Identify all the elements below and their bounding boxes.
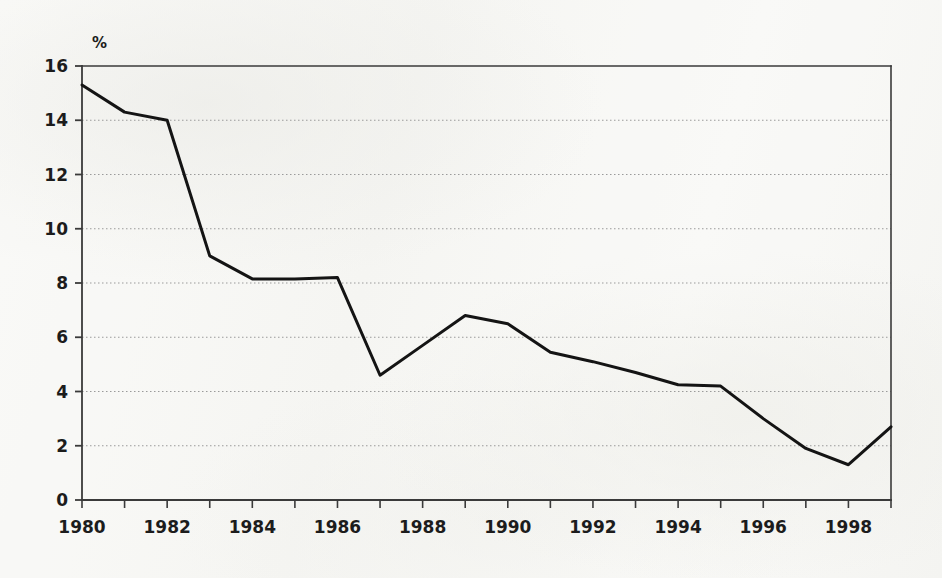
chart-figure: 0246810121416 19801982198419861988199019…	[0, 0, 942, 578]
y-axis-unit-label: %	[92, 34, 107, 52]
x-tick-label: 1982	[143, 517, 190, 537]
data-series-line	[82, 85, 891, 465]
y-tick-label: 10	[44, 219, 68, 239]
y-tick-label: 4	[56, 382, 68, 402]
y-tick-label: 8	[56, 273, 68, 293]
y-tick-label: 2	[56, 436, 68, 456]
y-tick-label: 14	[44, 110, 68, 130]
percent-unit-label: %	[92, 34, 107, 52]
gridlines	[82, 120, 891, 446]
x-tick-label: 1994	[654, 517, 701, 537]
y-tick-label: 12	[44, 165, 68, 185]
y-axis-ticks	[75, 66, 82, 500]
y-tick-label: 16	[44, 56, 68, 76]
x-axis-ticks	[82, 500, 891, 508]
x-tick-label: 1984	[229, 517, 276, 537]
line-chart-plot: 0246810121416 19801982198419861988199019…	[0, 0, 942, 578]
x-tick-label: 1986	[314, 517, 361, 537]
x-tick-label: 1990	[484, 517, 531, 537]
x-tick-label: 1996	[740, 517, 787, 537]
x-tick-label: 1998	[825, 517, 872, 537]
x-tick-label: 1980	[58, 517, 105, 537]
y-tick-label: 6	[56, 327, 68, 347]
x-tick-label: 1988	[399, 517, 446, 537]
y-tick-label: 0	[56, 490, 68, 510]
data-line	[82, 85, 891, 465]
x-tick-label: 1992	[569, 517, 616, 537]
x-axis-tick-labels: 1980198219841986198819901992199419961998	[58, 517, 872, 537]
y-axis-tick-labels: 0246810121416	[44, 56, 68, 510]
